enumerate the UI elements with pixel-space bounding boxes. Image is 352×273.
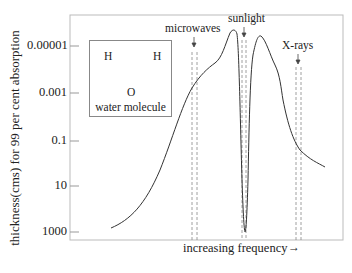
- y-tick-label: 0.00001: [27, 38, 67, 53]
- oxygen-label: O: [127, 86, 135, 98]
- inset-caption: water molecule: [90, 101, 171, 113]
- x-axis-label: increasing frequency: [183, 241, 287, 256]
- xrays-band: [296, 67, 301, 240]
- water-molecule-inset: H H O water molecule: [89, 40, 172, 117]
- y-tick-label: 0.001: [27, 85, 67, 100]
- hydrogen-label-right: H: [153, 50, 161, 62]
- sunlight-label: sunlight: [228, 12, 265, 24]
- sunlight-band: [242, 40, 246, 240]
- y-axis-label: thickness(cms) for 99 per cent absorptio…: [4, 30, 26, 245]
- xrays-label: X-rays: [282, 39, 313, 51]
- y-axis-label-text: thickness(cms) for 99 per cent absorptio…: [7, 30, 23, 246]
- y-tick-marks: [70, 46, 79, 232]
- y-tick-label: 1000: [27, 224, 67, 239]
- right-arrow-icon: →: [288, 240, 300, 255]
- hydrogen-label-left: H: [104, 50, 112, 62]
- microwaves-band: [192, 52, 197, 240]
- y-tick-label: 0.1: [27, 133, 67, 148]
- microwaves-label: microwaves: [165, 22, 221, 34]
- y-tick-label: 10: [27, 178, 67, 193]
